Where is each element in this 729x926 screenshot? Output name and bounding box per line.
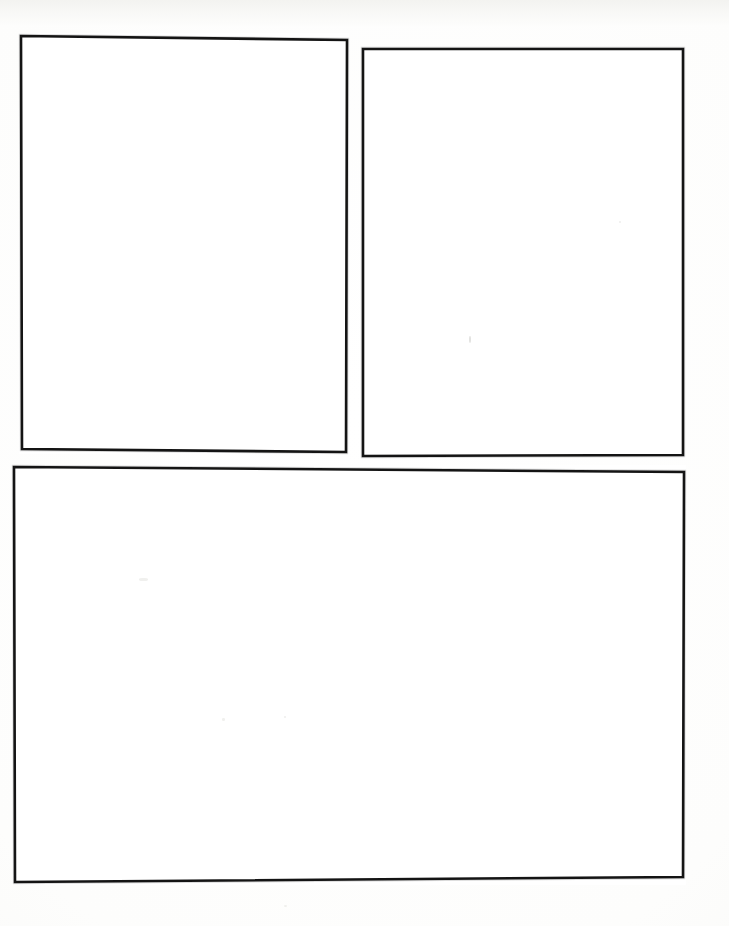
panel-bottom-wide-frame [12, 465, 686, 885]
panel-top-left-frame [19, 33, 349, 454]
panel-top-right-frame [361, 47, 685, 458]
speck-lower-left [139, 578, 148, 581]
speck-center-right [469, 336, 471, 343]
speck-bottom-right [284, 716, 286, 718]
panels-layer [0, 0, 729, 926]
panel-top-right[interactable] [361, 47, 685, 458]
comic-template-page [0, 0, 729, 926]
panel-top-left[interactable] [19, 33, 349, 454]
panel-bottom-wide[interactable] [12, 465, 686, 885]
speck-bottom-edge [284, 905, 287, 907]
speck-upper-right [619, 221, 621, 223]
speck-lower-mid [222, 718, 225, 721]
